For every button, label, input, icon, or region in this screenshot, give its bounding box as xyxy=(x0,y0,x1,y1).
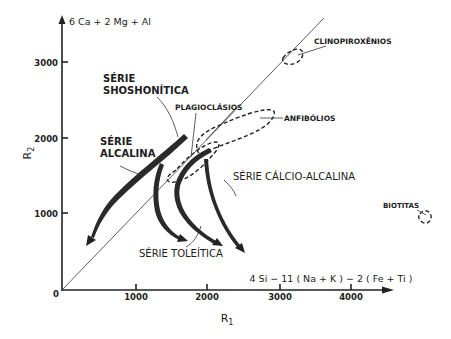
shoshonitica-label-line1: SÉRIE xyxy=(103,72,135,84)
clinopiroxenios-label: CLINOPIROXÊNIOS xyxy=(314,37,392,46)
plagioclasios-leader-2 xyxy=(206,108,236,140)
biotitas-field xyxy=(419,211,431,223)
y-axis-label: R2 xyxy=(21,147,36,160)
calcio-alcalina-label: SÉRIE CÁLCIO-ALCALINA xyxy=(233,170,355,182)
origin-label: 0 xyxy=(53,289,59,299)
y-tick-2000: 2000 xyxy=(34,134,58,144)
y-axis-arrow-icon xyxy=(59,15,66,24)
anfibolios-label: ANFIBÓLIOS xyxy=(284,114,335,123)
toleitica-label: SÉRIE TOLEÍTICA xyxy=(139,247,223,259)
x-tick-3000: 3000 xyxy=(268,292,292,302)
x-axis-arrow-icon xyxy=(382,287,394,294)
x-axis-label-sub: 1 xyxy=(228,318,233,327)
clinopiroxenios-field xyxy=(283,49,303,64)
toleitica-arrow-left-icon xyxy=(177,234,188,242)
shoshonitica-label-line2: SHOSHONÍTICA xyxy=(103,84,189,96)
y-axis-label-sub: 2 xyxy=(27,147,36,152)
alcalina-label-line2: ALCALINA xyxy=(100,148,156,159)
y-axis-formula: 6 Ca + 2 Mg + Al xyxy=(69,16,151,27)
x-tick-2000: 2000 xyxy=(195,292,219,302)
plagioclasios-leader xyxy=(191,113,196,157)
biotitas-leader xyxy=(417,210,426,215)
x-tick-4000: 4000 xyxy=(339,292,363,302)
alcalina-arrow-icon xyxy=(86,235,96,246)
plagioclasios-label: PLAGIOCLÁSIOS xyxy=(175,103,242,112)
x-axis: 0 1000 2000 3000 4000 4 Si − 11 ( Na + K… xyxy=(53,273,412,327)
x-axis-label: R1 xyxy=(221,312,234,327)
biotitas-label: BIOTITAS xyxy=(383,202,419,210)
y-tick-3000: 3000 xyxy=(34,58,58,68)
x-axis-formula: 4 Si − 11 ( Na + K ) − 2 ( Fe + Ti ) xyxy=(250,273,413,284)
x-tick-1000: 1000 xyxy=(124,292,148,302)
alcalina-label-line1: SÉRIE xyxy=(100,135,132,147)
svg-text:R2: R2 xyxy=(21,147,36,160)
r1-r2-diagram: 3000 2000 1000 6 Ca + 2 Mg + Al R2 0 100… xyxy=(0,0,451,339)
alcalina-leader xyxy=(120,166,142,175)
calcio-alcalina-leader xyxy=(224,180,236,196)
toleitica-trend-band xyxy=(174,148,216,244)
anfibolios-field xyxy=(197,110,275,154)
y-tick-1000: 1000 xyxy=(34,209,58,219)
